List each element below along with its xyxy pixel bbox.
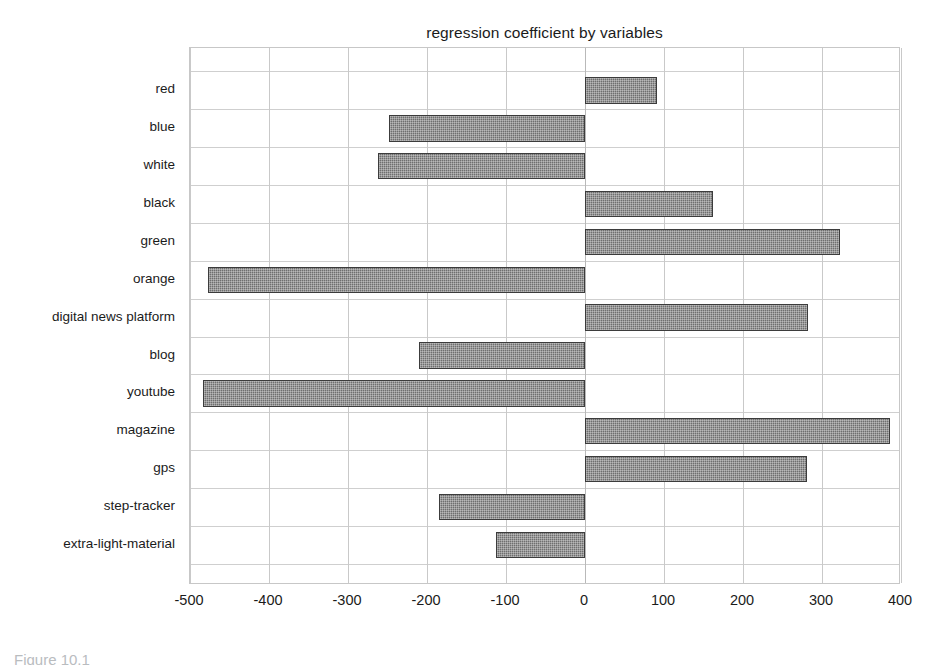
bars-layer bbox=[190, 48, 899, 583]
x-tick-label: 400 bbox=[888, 592, 912, 608]
bar-black bbox=[585, 191, 713, 218]
bar-blue bbox=[389, 115, 585, 142]
x-tick-label: -200 bbox=[411, 592, 440, 608]
y-category-label-extra-light-material: extra-light-material bbox=[63, 537, 175, 551]
bar-orange bbox=[208, 267, 585, 294]
y-category-label-step-tracker: step-tracker bbox=[104, 499, 175, 513]
bar-gps bbox=[585, 456, 807, 483]
gridline-x-400 bbox=[901, 48, 902, 583]
y-axis-category-labels: redbluewhiteblackgreenorangedigital news… bbox=[0, 47, 183, 584]
bar-step-tracker bbox=[439, 494, 585, 521]
bar-youtube bbox=[203, 380, 585, 407]
plot-area bbox=[189, 47, 900, 584]
bar-red bbox=[585, 77, 657, 104]
y-category-label-orange: orange bbox=[133, 272, 175, 286]
y-category-label-youtube: youtube bbox=[127, 386, 175, 400]
y-category-label-gps: gps bbox=[153, 461, 175, 475]
x-tick-label: 300 bbox=[809, 592, 833, 608]
y-category-label-blog: blog bbox=[149, 348, 175, 362]
y-category-label-white: white bbox=[143, 158, 175, 172]
x-tick-label: -500 bbox=[174, 592, 203, 608]
figure-caption: Figure 10.1 bbox=[14, 651, 90, 665]
y-category-label-black: black bbox=[143, 196, 175, 210]
x-tick-label: 200 bbox=[730, 592, 754, 608]
bar-green bbox=[585, 229, 840, 256]
bar-magazine bbox=[585, 418, 890, 445]
x-tick-label: -300 bbox=[332, 592, 361, 608]
x-tick-label: -100 bbox=[490, 592, 519, 608]
x-axis-tick-labels: -500-400-300-200-1000100200300400 bbox=[189, 592, 900, 622]
bar-extra-light-material bbox=[496, 532, 585, 559]
y-category-label-red: red bbox=[155, 83, 175, 97]
x-tick-label: 100 bbox=[651, 592, 675, 608]
x-tick-label: -400 bbox=[253, 592, 282, 608]
bar-white bbox=[378, 153, 585, 180]
chart-title: regression coefficient by variables bbox=[189, 24, 900, 42]
y-category-label-blue: blue bbox=[149, 121, 175, 135]
y-category-label-digital-news-platform: digital news platform bbox=[52, 310, 175, 324]
bar-digital-news-platform bbox=[585, 304, 808, 331]
y-category-label-magazine: magazine bbox=[116, 423, 175, 437]
bar-blog bbox=[419, 342, 585, 369]
y-category-label-green: green bbox=[140, 234, 175, 248]
x-tick-label: 0 bbox=[580, 592, 588, 608]
